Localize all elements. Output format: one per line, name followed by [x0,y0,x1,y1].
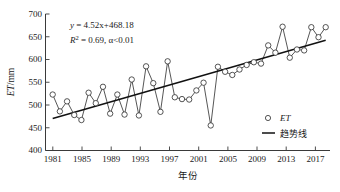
data-point-marker [280,24,285,29]
r-squared-body: = 0.69, α<0.01 [79,35,134,45]
data-point-marker [237,67,242,72]
data-point-marker [266,43,271,48]
evapotranspiration-trend-chart: 400 450 500 550 600 650 700 1981 1985 19… [0,0,340,192]
svg-text:ET/mm: ET/mm [6,67,16,97]
y-tick-label: 700 [29,9,43,19]
data-point-marker [72,112,77,117]
x-tick-label: 1985 [73,154,92,164]
x-axis-title: 年份 [178,170,198,181]
data-point-marker [287,55,292,60]
data-point-marker [129,77,134,82]
data-point-marker [79,117,84,122]
data-point-marker [201,80,206,85]
data-point-marker [50,92,55,97]
data-point-marker [158,109,163,114]
x-tick-label: 2013 [277,154,296,164]
legend-label-et: ET [279,113,291,123]
legend-label-trend: 趋势线 [280,128,307,139]
equation-body: = 4.52x+468.18 [74,20,134,30]
r-squared-annotation: R2 = 0.69, α<0.01 [69,34,134,45]
data-point-marker [316,35,321,40]
data-point-marker [230,72,235,77]
data-point-marker [165,59,170,64]
y-tick-label: 400 [29,145,43,155]
data-point-marker [179,96,184,101]
data-point-marker [244,62,249,67]
data-point-marker [194,88,199,93]
data-point-marker [100,84,105,89]
x-tick-label: 2017 [306,154,325,164]
x-tick-label: 2005 [219,154,238,164]
x-tick-label: 2009 [248,154,267,164]
y-tick-label: 550 [29,77,43,87]
data-point-marker [86,90,91,95]
data-point-marker [215,64,220,69]
x-tick-label: 1997 [161,154,180,164]
data-point-marker [115,92,120,97]
data-point-marker [143,64,148,69]
regression-equation-annotation: y = 4.52x+468.18 [69,20,134,30]
y-tick-label: 600 [29,54,43,64]
y-axis-title: ET/mm [6,67,16,97]
y-tick-label: 500 [29,100,43,110]
x-tick-label: 1993 [131,154,150,164]
y-axis-title-variable: ET [6,84,16,97]
data-point-marker [172,95,177,100]
data-point-marker [273,50,278,55]
legend-marker-et-icon [265,115,270,120]
chart-figure: 400 450 500 550 600 650 700 1981 1985 19… [0,0,340,192]
data-point-marker [122,112,127,117]
data-point-marker [301,48,306,53]
data-point-marker [258,61,263,66]
data-point-marker [64,99,69,104]
data-point-marker [57,109,62,114]
data-point-marker [323,25,328,30]
x-tick-label: 2001 [190,154,208,164]
data-point-marker [93,100,98,105]
data-point-marker [136,113,141,118]
x-tick-label: 1981 [44,154,62,164]
y-axis-title-unit: /mm [6,67,16,85]
data-point-marker [208,123,213,128]
x-tick-label: 1989 [102,154,121,164]
data-point-marker [222,69,227,74]
data-point-marker [309,25,314,30]
y-tick-label: 450 [29,123,43,133]
data-point-marker [251,60,256,65]
data-point-marker [151,80,156,85]
data-point-marker [186,97,191,102]
data-point-marker [107,111,112,116]
data-point-marker [294,47,299,52]
y-tick-label: 650 [29,32,43,42]
